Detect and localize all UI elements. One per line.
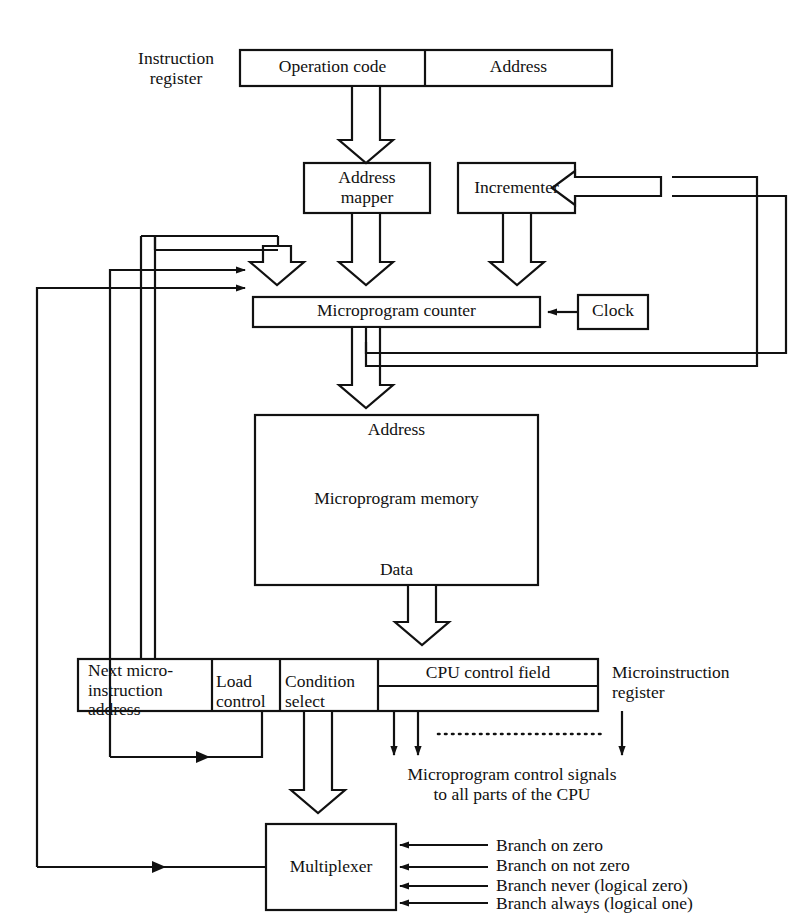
condition-select-label: Condition select xyxy=(285,672,380,711)
bus-incrementer-to-counter xyxy=(490,213,544,285)
branch-label-3: Branch always (logical one) xyxy=(496,894,693,914)
next-microinstruction-address-label: Next micro- instruction address xyxy=(88,661,212,720)
opcode-label: Operation code xyxy=(240,57,425,77)
line-counter-to-incrementer-outer xyxy=(366,196,786,353)
bus-condition-to-mux xyxy=(291,711,345,813)
branch-label-0: Branch on zero xyxy=(496,836,603,856)
clock-label: Clock xyxy=(578,301,648,321)
load-control-label: Load control xyxy=(216,672,282,711)
address-field-label: Address xyxy=(425,57,612,77)
bus-opcode-to-mapper xyxy=(339,86,393,163)
incrementer-label: Incrementer xyxy=(458,178,575,198)
branch-label-1: Branch on not zero xyxy=(496,856,630,876)
bus-memory-to-mir xyxy=(395,585,449,645)
memory-address-label: Address xyxy=(255,420,538,440)
arrowhead-load-control-mid xyxy=(196,751,210,763)
multiplexer-label: Multiplexer xyxy=(266,857,396,877)
microprogram-counter-label: Microprogram counter xyxy=(253,301,540,321)
bus-mapper-to-counter xyxy=(339,213,393,285)
microinstruction-register-label: Microinstruction register xyxy=(612,663,802,702)
cpu-control-field-label: CPU control field xyxy=(378,663,598,683)
instruction-register-label: Instruction register xyxy=(118,49,234,88)
control-signals-label: Microprogram control signals to all part… xyxy=(382,765,642,804)
microprogram-memory-label: Microprogram memory xyxy=(255,489,538,509)
address-mapper-label: Address mapper xyxy=(304,168,430,207)
arrowhead-mux-out-mid xyxy=(152,861,166,873)
memory-data-label: Data xyxy=(255,560,538,580)
